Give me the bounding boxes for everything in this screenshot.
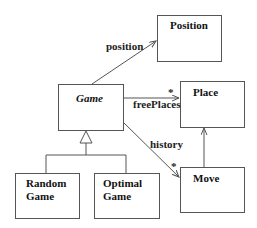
class-name-line2: Game (103, 190, 131, 202)
class-name: Position (170, 19, 208, 31)
class-name-line1: Random (26, 177, 66, 189)
class-place[interactable]: Place (180, 81, 245, 128)
role-label-history: history (150, 138, 183, 150)
class-random-game[interactable]: Random Game (15, 173, 80, 219)
class-move[interactable]: Move (180, 167, 245, 213)
class-optimal-game[interactable]: Optimal Game (94, 173, 160, 219)
multiplicity-freeplaces: * (168, 86, 174, 98)
class-name: Game (76, 92, 103, 104)
class-name-line1: Optimal (103, 177, 142, 189)
generalization-triangle-icon (80, 131, 92, 143)
class-game[interactable]: Game (58, 84, 124, 131)
class-name: Place (193, 86, 218, 98)
class-name-line2: Game (26, 190, 54, 202)
class-name: Move (193, 172, 219, 184)
role-label-position: position (106, 40, 143, 52)
class-position[interactable]: Position (157, 15, 222, 62)
role-label-freeplaces: freePlaces (133, 98, 180, 110)
multiplicity-history: * (171, 160, 177, 172)
